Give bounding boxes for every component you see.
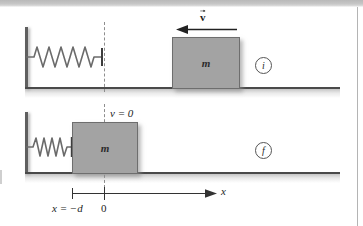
dashed-guide-initial — [104, 22, 105, 92]
vector-overbar-icon — [200, 8, 206, 13]
stage-marker-final-label: f — [262, 146, 265, 156]
velocity-zero-text: v = 0 — [110, 107, 133, 119]
block-label-final: m — [101, 142, 110, 154]
x-axis-name: x — [221, 186, 226, 197]
stage-marker-initial-label: i — [262, 61, 265, 71]
block-label-initial: m — [202, 57, 211, 69]
page-right-rule — [357, 7, 358, 226]
page-left-tick — [0, 170, 2, 184]
velocity-label-initial: v — [200, 12, 206, 23]
x-axis-line — [72, 193, 208, 194]
x-axis-name-text: x — [221, 185, 226, 197]
spring-compressed-icon — [26, 134, 74, 160]
x-axis-label-minus-d-text: x = −d — [52, 202, 83, 214]
velocity-zero-label: v = 0 — [110, 108, 133, 119]
ground-shadow-final — [25, 174, 340, 183]
x-axis-label-minus-d: x = −d — [52, 203, 83, 214]
block-final: m — [72, 122, 138, 174]
x-axis-label-origin: 0 — [101, 203, 107, 214]
x-axis-arrowhead-icon — [203, 188, 217, 199]
x-axis-tick-origin — [104, 187, 105, 200]
velocity-arrow-initial — [176, 24, 238, 35]
spring-relaxed-icon — [26, 44, 104, 70]
stage-marker-initial: i — [255, 57, 272, 74]
page-top-band — [0, 0, 363, 7]
ground-shadow-initial — [25, 89, 340, 98]
block-initial: m — [172, 37, 240, 89]
stage-marker-final: f — [255, 142, 272, 159]
x-axis-label-origin-text: 0 — [101, 202, 107, 214]
physics-figure: m v i m — [0, 0, 363, 226]
x-axis-tick-minus-d — [72, 188, 73, 199]
